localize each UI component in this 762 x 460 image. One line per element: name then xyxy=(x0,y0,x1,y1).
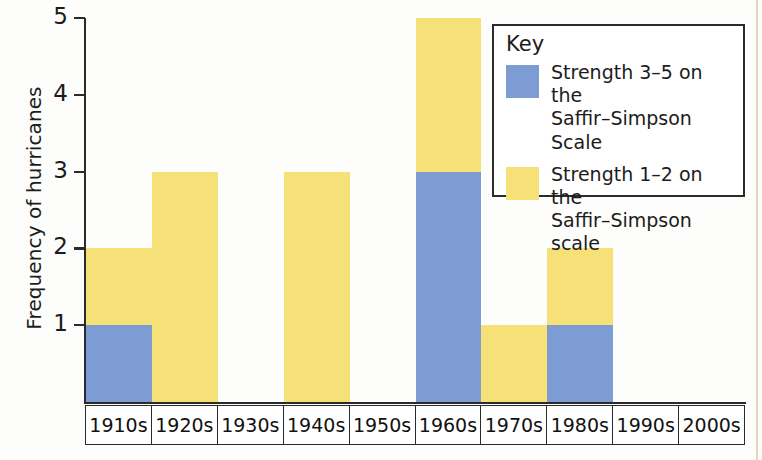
legend-entry-label: Strength 1–2 on the Saffir–Simpson scale xyxy=(551,163,733,256)
x-axis-category-2000s: 2000s xyxy=(679,406,744,444)
legend-swatch-strength-1-2 xyxy=(506,167,539,200)
x-axis-category-1980s: 1980s xyxy=(547,406,613,444)
y-axis-tick-label-4: 4 xyxy=(28,82,68,106)
y-axis-tick-mark xyxy=(74,247,85,249)
x-axis-category-1920s: 1920s xyxy=(152,406,218,444)
y-axis-tick-label-3: 3 xyxy=(28,159,68,183)
bar-segment-strength-1-2-1920s xyxy=(152,172,218,402)
bar-1960s xyxy=(416,18,482,402)
bar-segment-strength-1-2-1970s xyxy=(481,325,547,402)
x-axis-category-1930s: 1930s xyxy=(218,406,284,444)
y-axis-tick-label-1: 1 xyxy=(28,312,68,336)
y-axis-tick-mark xyxy=(74,17,85,19)
bar-segment-strength-1-2-1940s xyxy=(284,172,350,402)
bar-segment-strength-1-2-1910s xyxy=(86,248,152,325)
bar-1920s xyxy=(152,18,218,402)
y-axis-tick-mark xyxy=(74,171,85,173)
y-axis-tick-label-text: 2 xyxy=(28,235,68,258)
y-axis-tick-label-text: 5 xyxy=(28,5,68,28)
y-axis-tick-label-text: 1 xyxy=(28,312,68,335)
bar-segment-strength-1-2-1980s xyxy=(547,248,613,325)
bar-segment-strength-3-5-1980s xyxy=(547,325,613,402)
y-axis-tick-mark xyxy=(74,94,85,96)
legend-entry-label: Strength 3–5 on the Saffir–Simpson Scale xyxy=(551,61,733,154)
y-axis-tick-label-2: 2 xyxy=(28,235,68,259)
x-axis-category-1940s: 1940s xyxy=(284,406,350,444)
legend-title: Key xyxy=(506,33,733,55)
y-axis-tick-label-text: 4 xyxy=(28,82,68,105)
x-axis-category-1970s: 1970s xyxy=(481,406,547,444)
legend-entry-2: Strength 1–2 on the Saffir–Simpson scale xyxy=(506,163,733,256)
chart-page: Frequency of hurricanes 54321 1910s1920s… xyxy=(0,0,762,460)
y-axis-tick-label-5: 5 xyxy=(28,5,68,29)
y-axis-tick-mark xyxy=(74,324,85,326)
bar-1910s xyxy=(86,18,152,402)
bar-1940s xyxy=(284,18,350,402)
legend-entry-list: Strength 3–5 on the Saffir–Simpson Scale… xyxy=(506,61,733,255)
x-axis-category-1910s: 1910s xyxy=(86,406,152,444)
bar-segment-strength-1-2-1960s xyxy=(416,18,482,172)
legend-swatch-strength-3-5 xyxy=(506,65,539,98)
x-axis-category-1950s: 1950s xyxy=(350,406,416,444)
bar-segment-strength-3-5-1910s xyxy=(86,325,152,402)
x-axis-category-1960s: 1960s xyxy=(416,406,482,444)
legend-box: Key Strength 3–5 on the Saffir–Simpson S… xyxy=(492,24,745,197)
page-edge-artifact xyxy=(756,0,758,460)
bar-segment-strength-3-5-1960s xyxy=(416,172,482,402)
y-axis-tick-label-text: 3 xyxy=(28,159,68,182)
x-axis-category-1990s: 1990s xyxy=(613,406,679,444)
x-axis-category-row: 1910s1920s1930s1940s1950s1960s1970s1980s… xyxy=(85,405,745,445)
legend-entry-1: Strength 3–5 on the Saffir–Simpson Scale xyxy=(506,61,733,154)
